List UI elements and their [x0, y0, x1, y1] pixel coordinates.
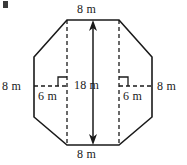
label-left-offset: 6 m	[38, 90, 57, 102]
geometry-figure: 8 m 8 m 8 m 8 m 18 m 6 m 6 m	[0, 0, 187, 165]
label-right-side: 8 m	[157, 80, 176, 92]
label-left-side: 8 m	[2, 80, 21, 92]
label-right-offset: 6 m	[123, 90, 142, 102]
label-bottom-side: 8 m	[77, 148, 96, 160]
right-angle-marker-left	[58, 77, 67, 86]
label-top-side: 8 m	[77, 3, 96, 15]
label-height: 18 m	[74, 79, 99, 91]
right-angle-marker-right	[119, 77, 128, 86]
